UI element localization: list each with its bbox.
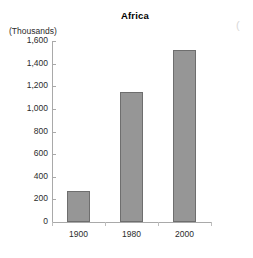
- y-axis-tick-mark: [52, 41, 56, 42]
- y-axis-tick-label: 800: [0, 126, 48, 136]
- x-axis-line: [52, 222, 212, 223]
- x-axis-tick-mark: [52, 222, 53, 226]
- y-axis-tick-mark: [52, 109, 56, 110]
- x-axis-tick-mark: [105, 222, 106, 226]
- y-axis-tick-label: 0: [0, 216, 48, 226]
- y-axis-tick-label: 1,000: [0, 103, 48, 113]
- y-axis-tick-label: 600: [0, 148, 48, 158]
- y-axis-tick-mark: [52, 64, 56, 65]
- x-axis-tick-mark: [158, 222, 159, 226]
- x-axis-tick-label: 1900: [49, 229, 109, 239]
- bar-1900: [67, 191, 89, 222]
- y-axis-tick-label: 1,600: [0, 35, 48, 45]
- y-axis-tick-label: 200: [0, 193, 48, 203]
- x-axis-tick-label: 2000: [155, 229, 215, 239]
- chart-title: Africa: [60, 10, 210, 21]
- x-axis-tick-mark: [211, 222, 212, 226]
- y-axis-tick-mark: [52, 154, 56, 155]
- y-axis-tick-mark: [52, 199, 56, 200]
- edge-artifact-glyph: (: [236, 19, 240, 31]
- bar-2000: [173, 50, 195, 222]
- bar-chart-figure: Africa (Thousands) 02004006008001,0001,2…: [0, 0, 253, 258]
- y-axis-tick-mark: [52, 86, 56, 87]
- y-axis-tick-mark: [52, 132, 56, 133]
- y-axis-tick-label: 400: [0, 171, 48, 181]
- x-axis-tick-label: 1980: [102, 229, 162, 239]
- bar-1980: [120, 92, 142, 222]
- y-axis-tick-mark: [52, 177, 56, 178]
- y-axis-tick-label: 1,400: [0, 58, 48, 68]
- y-axis-tick-label: 1,200: [0, 80, 48, 90]
